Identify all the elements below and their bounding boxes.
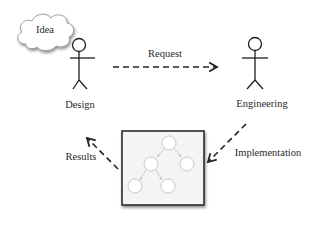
implementation-box [122,131,204,205]
results-label: Results [66,151,97,162]
design-actor-icon [70,39,95,90]
request-label: Request [148,48,182,59]
design-label: Design [65,99,95,110]
engineering-actor-icon [242,38,268,90]
idea-label: Idea [36,24,54,35]
engineering-label: Engineering [236,98,287,109]
implementation-label: Implementation [235,147,301,158]
